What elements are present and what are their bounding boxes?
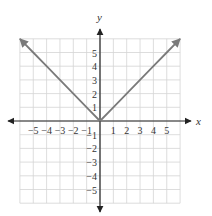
x-tick-label: 1 [111, 125, 116, 136]
y-axis-label: y [96, 11, 102, 23]
x-tick-label: −4 [41, 125, 52, 136]
x-tick-label: −5 [28, 125, 39, 136]
y-tick-label: −2 [86, 143, 97, 154]
y-tick-label: 3 [92, 75, 97, 86]
x-tick-label: −3 [55, 125, 66, 136]
x-tick-label: 4 [151, 125, 156, 136]
y-tick-label: 2 [92, 89, 97, 100]
y-tick-label: −3 [86, 157, 97, 168]
y-tick-label: −1 [86, 130, 97, 141]
x-tick-label: −2 [68, 125, 79, 136]
y-tick-label: 4 [92, 61, 97, 72]
graph: −5−4−3−2−112345−5−4−3−2−112345 x y [0, 0, 212, 216]
x-tick-label: 2 [124, 125, 129, 136]
y-tick-label: −5 [86, 185, 97, 196]
x-tick-label: 3 [138, 125, 143, 136]
y-tick-label: 1 [92, 102, 97, 113]
y-tick-label: −4 [86, 171, 97, 182]
x-tick-label: 5 [164, 125, 169, 136]
y-tick-label: 5 [92, 48, 97, 59]
x-axis-label: x [195, 115, 201, 127]
